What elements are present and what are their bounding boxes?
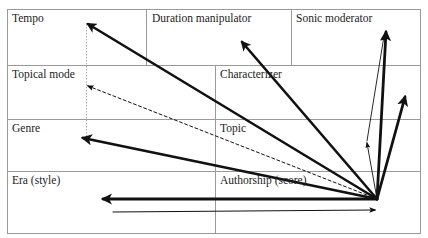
- cell-label-era-style: Era (style): [12, 174, 60, 187]
- arrow-to-tempo: [88, 24, 377, 199]
- cell-label-characterizer: Characterizer: [220, 68, 282, 81]
- cell-label-authorship-score: Authorship (score): [220, 174, 307, 187]
- cell-label-topic: Topic: [220, 122, 246, 135]
- diagram-canvas: [0, 0, 428, 238]
- arrow-bottom-right: [113, 210, 375, 212]
- cell-label-tempo: Tempo: [12, 12, 44, 25]
- cell-label-genre: Genre: [12, 122, 40, 135]
- cell-label-sonic-moderator: Sonic moderator: [296, 12, 372, 25]
- cell-label-topical-mode: Topical mode: [12, 68, 75, 81]
- cell-label-duration-manipulator: Duration manipulator: [152, 12, 251, 25]
- influence-diagram: Tempo Duration manipulator Sonic moderat…: [0, 0, 428, 238]
